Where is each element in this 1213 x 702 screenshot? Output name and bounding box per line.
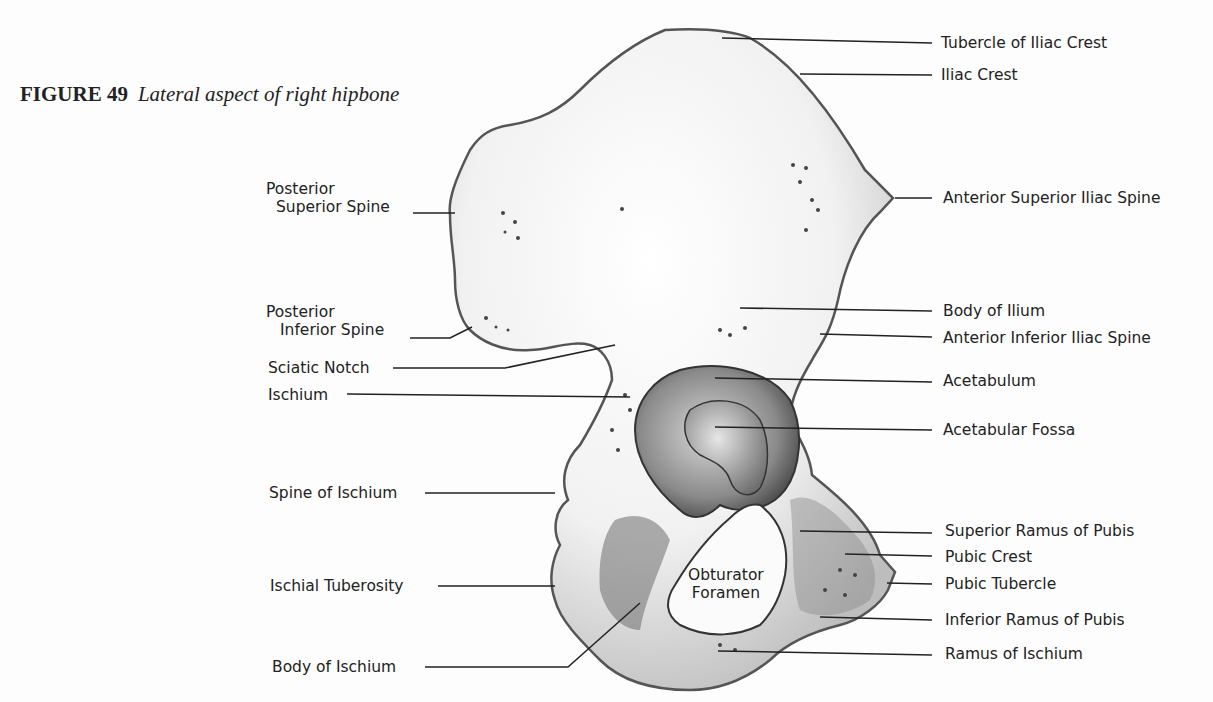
label-iliac-crest: Iliac Crest xyxy=(941,66,1018,84)
label-sciatic-notch: Sciatic Notch xyxy=(268,359,370,377)
label-pubic-tubercle: Pubic Tubercle xyxy=(945,575,1056,593)
hipbone-illustration xyxy=(0,0,1213,702)
label-pubic-crest: Pubic Crest xyxy=(945,548,1032,566)
label-line: Posterior xyxy=(266,303,384,321)
label-inferior-ramus-of-pubis: Inferior Ramus of Pubis xyxy=(945,611,1125,629)
label-line: Obturator xyxy=(688,566,764,584)
label-line: Posterior xyxy=(266,180,390,198)
label-tubercle-of-iliac-crest: Tubercle of Iliac Crest xyxy=(941,34,1107,52)
label-anterior-superior-iliac-spine: Anterior Superior Iliac Spine xyxy=(943,189,1160,207)
label-acetabular-fossa: Acetabular Fossa xyxy=(943,421,1075,439)
pubis-shadow xyxy=(790,497,875,615)
label-ischial-tuberosity: Ischial Tuberosity xyxy=(270,577,404,595)
label-spine-of-ischium: Spine of Ischium xyxy=(269,484,397,502)
label-obturator-foramen: Obturator Foramen xyxy=(688,566,764,602)
label-ramus-of-ischium: Ramus of Ischium xyxy=(945,645,1083,663)
label-acetabulum: Acetabulum xyxy=(943,372,1036,390)
label-ischium: Ischium xyxy=(268,386,328,404)
label-line: Foramen xyxy=(688,584,764,602)
label-anterior-inferior-iliac-spine: Anterior Inferior Iliac Spine xyxy=(943,329,1151,347)
label-body-of-ischium: Body of Ischium xyxy=(272,658,396,676)
label-line: Inferior Spine xyxy=(266,321,384,339)
label-line: Superior Spine xyxy=(266,198,390,216)
label-body-of-ilium: Body of Ilium xyxy=(943,302,1045,320)
label-superior-ramus-of-pubis: Superior Ramus of Pubis xyxy=(945,522,1134,540)
label-posterior-superior-spine: Posterior Superior Spine xyxy=(266,180,390,216)
label-posterior-inferior-spine: Posterior Inferior Spine xyxy=(266,303,384,339)
